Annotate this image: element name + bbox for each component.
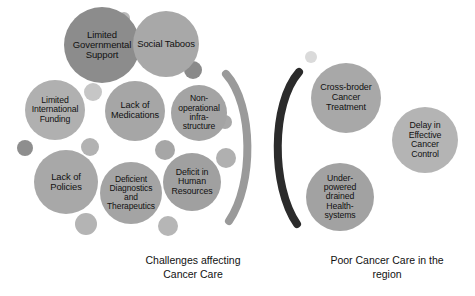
bubble: Under- powered drained Health- systems: [306, 163, 374, 231]
bubble: Limited International Funding: [25, 80, 85, 140]
bubble: Cross-broder Cancer Treatment: [311, 63, 381, 133]
left-cluster-dot: [158, 216, 178, 236]
bubble-label: Limited Governmental Support: [65, 30, 139, 61]
left-cluster-caption: Challenges affecting Cancer Care: [118, 253, 268, 281]
bubble-label: Cross-broder Cancer Treatment: [312, 83, 380, 112]
left-cluster-dot: [75, 213, 97, 235]
dark-gray-arc: [278, 72, 299, 224]
bubble: Non- operational infra- structure: [171, 85, 227, 141]
left-cluster-dot: [155, 140, 175, 160]
left-cluster-dot: [84, 83, 102, 101]
right-cluster-caption: Poor Cancer Care in the region: [312, 253, 462, 281]
bubble: Deficit in Human Resources: [163, 153, 221, 211]
bubble: Social Taboos: [133, 11, 199, 77]
bubble-label: Social Taboos: [134, 39, 198, 49]
diagram-canvas: Limited Governmental SupportSocial Taboo…: [0, 0, 475, 296]
bubble-label: Limited International Funding: [26, 96, 84, 124]
bubble-label: Under- powered drained Health- systems: [307, 174, 373, 221]
bubble-label: Deficient Diagnostics and Therapeutics: [101, 175, 161, 212]
bubble: Deficient Diagnostics and Therapeutics: [100, 162, 162, 224]
bubble: Lack of Medications: [105, 81, 165, 141]
bubble-label: Deficit in Human Resources: [164, 168, 220, 197]
bubble-label: Non- operational infra- structure: [172, 94, 226, 131]
bubble: Lack of Policies: [34, 150, 98, 214]
bubble: Limited Governmental Support: [64, 7, 140, 83]
left-cluster-dot: [216, 148, 236, 168]
right-cluster-dot: [305, 51, 317, 63]
bubble-label: Delay in Effective Cancer Control: [393, 121, 457, 159]
light-gray-arc: [226, 74, 247, 221]
left-cluster-dot: [17, 140, 33, 156]
left-cluster-dot: [81, 138, 99, 156]
bubble-label: Lack of Medications: [106, 101, 164, 121]
bubble: Delay in Effective Cancer Control: [392, 107, 458, 173]
bubble-label: Lack of Policies: [35, 172, 97, 192]
